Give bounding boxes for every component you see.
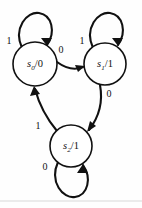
transition-s0-to-s1: 0 [57, 44, 85, 72]
state-output-s2: 1 [74, 140, 79, 151]
transition-s1-to-s2: 0 [87, 85, 112, 132]
transition-label-s1-to-s2: 0 [107, 88, 112, 99]
transition-s2-to-s0: 1 [30, 86, 57, 131]
state-node-s1[interactable]: s1/1 [84, 43, 126, 85]
transition-label-s2-to-s0: 1 [36, 120, 41, 131]
transition-label-s1-self: 1 [80, 35, 85, 46]
state-label-s1: s1/1 [97, 58, 113, 71]
state-output-s0: 0 [38, 58, 43, 69]
state-diagram-canvas: 1 1 0 0 0 1 [0, 0, 142, 208]
transition-label-s0-self: 1 [7, 35, 12, 46]
s2-to-s0-arrowhead [30, 86, 40, 96]
transition-label-s0-to-s1: 0 [59, 44, 64, 55]
state-diagram-figure: 1 1 0 0 0 1 [0, 0, 142, 208]
transition-label-s2-self: 0 [43, 161, 48, 172]
state-label-s2: s2/1 [63, 140, 79, 153]
state-node-s2[interactable]: s2/1 [50, 125, 92, 167]
state-output-s1: 1 [108, 58, 113, 69]
state-node-s0[interactable]: s0/0 [13, 42, 57, 86]
state-label-s0: s0/0 [27, 58, 43, 71]
